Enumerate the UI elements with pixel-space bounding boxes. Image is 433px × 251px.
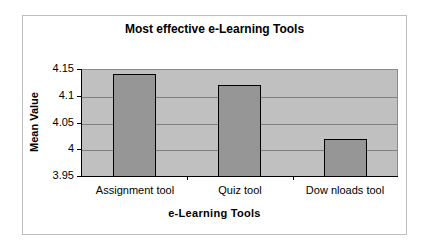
x-tick-label: Quiz tool [187,184,293,196]
y-axis-title: Mean Value [28,92,40,152]
y-tick-mark [77,123,81,124]
y-tick-mark [77,96,81,97]
y-tick-label: 4.05 [53,116,74,128]
x-tick-mark [187,176,188,180]
x-tick-label: Assignment tool [82,184,188,196]
x-axis-title: e-Learning Tools [22,207,407,219]
bar-assignment-tool [113,74,156,177]
chart-title: Most effective e-Learning Tools [22,22,407,36]
y-tick-label: 4.1 [59,89,74,101]
x-tick-mark [293,176,294,180]
y-tick-mark [77,149,81,150]
y-tick-label: 4.15 [53,62,74,74]
bar-quiz-tool [218,85,261,177]
x-tick-label: Dow nloads tool [292,184,398,196]
y-tick-label: 3.95 [53,169,74,181]
bar-dow-nloads-tool [324,139,367,177]
y-tick-mark [77,69,81,70]
y-tick-mark [77,176,81,177]
y-tick-label: 4 [68,142,74,154]
y-axis-line [81,69,82,177]
